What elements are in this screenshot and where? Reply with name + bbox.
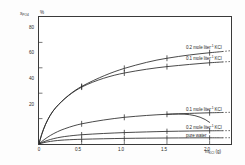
curve-label-2-text: 0.1 mole liter — [186, 56, 211, 61]
y-tick-label-80: 80 — [22, 26, 34, 31]
curve-label-0p2-kcl-lower: 0.2 mole liter-1 KCl — [186, 126, 222, 131]
curve-0p1-kcl-lower-tail — [167, 112, 222, 114]
curve-label-2-tail: KCl — [213, 56, 221, 61]
y-axis-title-sub2: 4 — [27, 13, 29, 17]
y-tick-label-20: 20 — [22, 103, 34, 108]
curve-label-4-text: 0.2 mole liter — [186, 125, 211, 130]
annotation-leader-lines — [222, 51, 231, 138]
x-axis-title-sub: KCl — [209, 151, 214, 155]
curve-label-3-tail: KCl — [213, 107, 221, 112]
x-tick-label-10: 1.0 — [113, 148, 129, 153]
curve-label-1-text: 0.2 mole liter — [186, 45, 211, 50]
x-tick-label-0: 0 — [31, 148, 47, 153]
curve-label-pure-water: pure water — [186, 134, 206, 139]
x-axis-title-unit: (g) — [215, 149, 221, 154]
curve-0p1-kcl-upper — [39, 62, 222, 144]
curve-label-0p2-kcl-upper: 0.2 mole liter-1 KCl — [186, 46, 222, 51]
curve-label-4-tail: KCl — [213, 125, 221, 130]
y-tick-label-40: 40 — [22, 77, 34, 82]
x-tick-label-15: 1.5 — [156, 148, 172, 153]
y-axis-title: xPO4 — [20, 12, 29, 17]
chart-figure: xPO4 % 80 60 40 20 0 0.5 1.0 1.5 2.0 mKC… — [0, 0, 245, 165]
x-tick-label-05: 0.5 — [70, 148, 86, 153]
curve-label-0p1-kcl-upper: 0.1 mole liter-1 KCl — [186, 57, 222, 62]
y-tick-label-60: 60 — [22, 51, 34, 56]
y-axis-unit: % — [40, 10, 44, 15]
curve-label-1-tail: KCl — [213, 45, 221, 50]
curve-label-3-text: 0.1 mole liter — [186, 107, 211, 112]
x-axis-title: mKCl (g) — [205, 150, 221, 155]
curve-label-0p1-kcl-lower: 0.1 mole liter-1 KCl — [186, 108, 222, 113]
curve-pure-water — [39, 138, 222, 144]
